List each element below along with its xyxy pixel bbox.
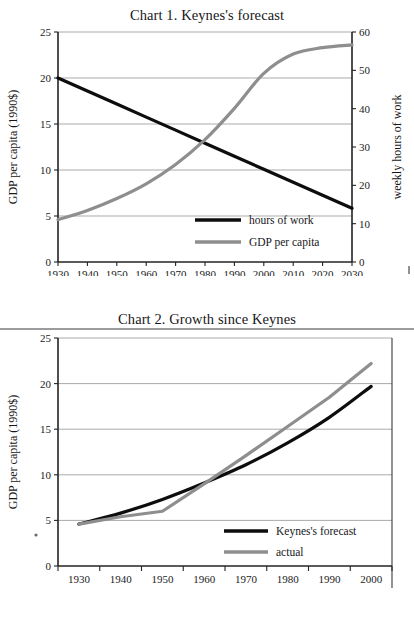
chart-1-title: Chart 1. Keynes's forecast xyxy=(0,0,414,24)
y-axis-title-right: weekly hours of work xyxy=(390,95,404,200)
y-tick-label: 10 xyxy=(40,469,52,481)
series-line-keynes-forecast xyxy=(79,386,371,524)
legend-label-0: hours of work xyxy=(249,214,314,226)
chart-1-svg: 0510152025010203040506019301940195019601… xyxy=(0,24,414,276)
y-tick-label-left: 0 xyxy=(46,256,52,268)
y-tick-label: 0 xyxy=(46,560,52,572)
chart-1-figure: Chart 1. Keynes's forecast 0510152025010… xyxy=(0,0,414,300)
chart-2-svg: 0510152025193019401950196019701980199020… xyxy=(0,328,414,596)
y-tick-label-left: 15 xyxy=(40,118,52,130)
y-tick-label: 5 xyxy=(46,514,52,526)
y-tick-label-left: 5 xyxy=(46,210,52,222)
y-tick-label-right: 0 xyxy=(359,256,365,268)
legend-label-1: GDP per capita xyxy=(249,236,319,249)
x-tick-label: 2020 xyxy=(312,268,335,276)
x-tick-label: 1980 xyxy=(194,268,217,276)
y-tick-label-left: 25 xyxy=(40,26,52,38)
x-tick-label: 1950 xyxy=(106,268,129,276)
x-tick-label: 1970 xyxy=(235,573,258,585)
y-tick-label: 15 xyxy=(40,423,52,435)
scan-speck xyxy=(34,533,37,536)
x-tick-label: 1970 xyxy=(165,268,188,276)
x-tick-label: 1940 xyxy=(76,268,99,276)
x-tick-label: 1930 xyxy=(68,573,91,585)
y-tick-label: 20 xyxy=(40,378,52,390)
x-tick-label: 2000 xyxy=(360,573,383,585)
y-tick-label-right: 30 xyxy=(359,141,371,153)
chart-1-plot-area: 0510152025010203040506019301940195019601… xyxy=(0,24,414,276)
y-axis-title: GDP per capita (1990$) xyxy=(6,395,20,510)
x-tick-label: 2030 xyxy=(341,268,364,276)
x-tick-label: 1980 xyxy=(277,573,300,585)
y-axis-title-left: GDP per capita (1990$) xyxy=(6,90,20,205)
y-tick-label-right: 10 xyxy=(359,218,371,230)
series-line-hours-of-work xyxy=(58,78,352,208)
y-tick-label-right: 60 xyxy=(359,26,371,38)
x-tick-label: 1940 xyxy=(110,573,133,585)
y-tick-label-right: 40 xyxy=(359,103,371,115)
y-tick-label-left: 20 xyxy=(40,72,52,84)
y-tick-label-left: 10 xyxy=(40,164,52,176)
series-line-gdp-per-capita xyxy=(58,45,352,220)
series-line-actual xyxy=(79,364,371,525)
x-tick-label: 1960 xyxy=(193,573,216,585)
x-tick-label: 1990 xyxy=(223,268,246,276)
y-tick-label-right: 50 xyxy=(359,64,371,76)
x-tick-label: 1930 xyxy=(47,268,70,276)
legend-label-1: actual xyxy=(276,546,303,558)
x-tick-label: 1950 xyxy=(151,573,174,585)
chart-2-figure: Chart 2. Growth since Keynes 05101520251… xyxy=(0,306,414,620)
chart-2-title: Chart 2. Growth since Keynes xyxy=(0,306,414,328)
chart-2-plot-area: 0510152025193019401950196019701980199020… xyxy=(0,328,414,596)
y-tick-label: 25 xyxy=(40,332,52,344)
y-tick-label-right: 20 xyxy=(359,179,371,191)
x-tick-label: 1990 xyxy=(318,573,341,585)
x-tick-label: 1960 xyxy=(135,268,158,276)
legend-label-0: Keynes's forecast xyxy=(276,525,357,538)
x-tick-label: 2000 xyxy=(253,268,276,276)
x-tick-label: 2010 xyxy=(282,268,305,276)
